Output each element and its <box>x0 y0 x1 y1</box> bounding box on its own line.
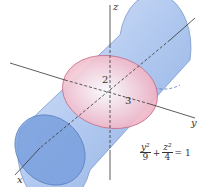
x-axis-label: x <box>17 175 23 185</box>
y-semi-axis-label: 3 <box>125 96 131 106</box>
y-axis <box>10 63 65 80</box>
cylinder-equation: y²9 + z²4 = 1 <box>140 143 191 162</box>
z-semi-axis-label: 2 <box>102 75 108 85</box>
z-axis-label: z <box>113 2 118 12</box>
y-axis-label: y <box>191 118 197 128</box>
